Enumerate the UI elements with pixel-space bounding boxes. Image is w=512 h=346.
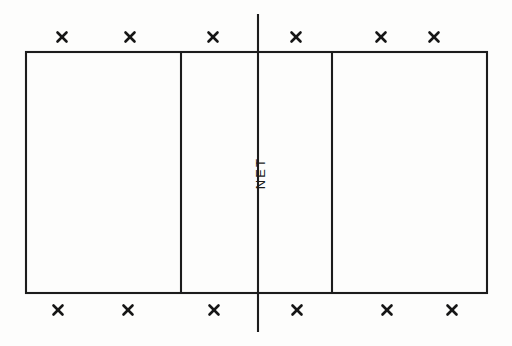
- player-mark: X: [448, 306, 457, 315]
- court-canvas: NET XXXXXX XXXXXX: [0, 0, 512, 346]
- bottom-player-marks-group: XXXXXX: [54, 306, 457, 315]
- player-mark: X: [383, 306, 392, 315]
- net-label: NET: [253, 157, 268, 189]
- player-mark: X: [293, 306, 302, 315]
- player-mark: X: [58, 33, 67, 42]
- player-mark: X: [292, 33, 301, 42]
- player-mark: X: [210, 306, 219, 315]
- net-group: NET: [253, 14, 268, 332]
- volleyball-court-diagram: NET XXXXXX XXXXXX: [0, 0, 512, 346]
- player-mark: X: [126, 33, 135, 42]
- player-mark: X: [430, 33, 439, 42]
- player-mark: X: [377, 33, 386, 42]
- player-mark: X: [54, 306, 63, 315]
- top-player-marks-group: XXXXXX: [58, 33, 439, 42]
- player-mark: X: [124, 306, 133, 315]
- player-mark: X: [209, 33, 218, 42]
